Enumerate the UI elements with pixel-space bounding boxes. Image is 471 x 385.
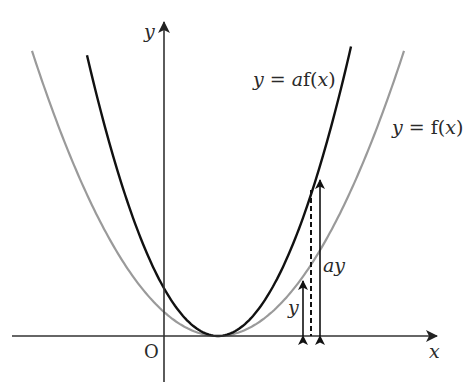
background bbox=[0, 0, 471, 385]
vertical-stretch-diagram: y x O y = af(x) y = f(x) y ay bbox=[0, 0, 471, 385]
label-y-equals-f-x: y = f(x) bbox=[391, 116, 463, 138]
label-af-eq: = bbox=[264, 68, 292, 90]
origin-label: O bbox=[144, 341, 159, 362]
label-af-lhs: y bbox=[252, 68, 264, 90]
label-y-equals-af-x: y = af(x) bbox=[252, 68, 336, 90]
arrow-label-ay: ay bbox=[323, 254, 345, 276]
label-af-coef: a bbox=[292, 68, 303, 90]
y-axis-label: y bbox=[143, 20, 155, 42]
label-f-var: x bbox=[445, 116, 456, 138]
label-f-lhs: y bbox=[391, 116, 403, 138]
label-af-var: x bbox=[318, 68, 329, 90]
arrow-label-y: y bbox=[287, 296, 299, 318]
label-f-fn: f( bbox=[431, 116, 445, 138]
label-f-eq: = bbox=[403, 116, 431, 138]
x-axis-label: x bbox=[429, 340, 440, 362]
label-af-fn: f( bbox=[303, 68, 317, 90]
label-f-close: ) bbox=[456, 116, 463, 138]
label-af-close: ) bbox=[328, 68, 335, 90]
